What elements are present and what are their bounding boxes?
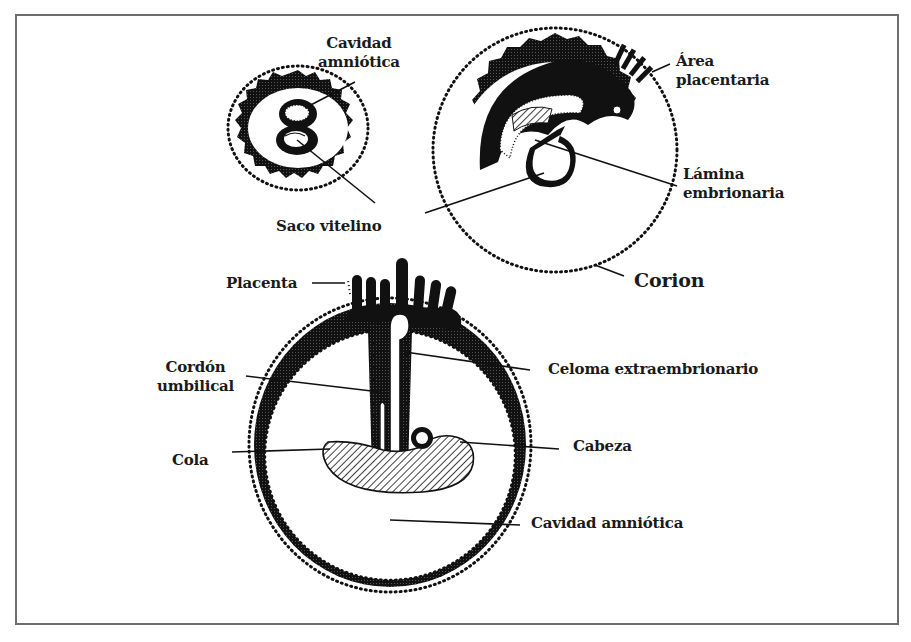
stage2-embryo: [433, 28, 677, 272]
label-placenta: Placenta: [226, 274, 297, 293]
label-celoma-extraembrionario: Celoma extraembrionario: [548, 360, 758, 379]
label-cavidad-amniotica-small: Cavidad amniótica: [318, 34, 400, 72]
label-cola: Cola: [172, 451, 209, 470]
label-saco-vitelino: Saco vitelino: [276, 217, 382, 236]
stage1-embryo: [228, 66, 368, 190]
stage3-embryo: [249, 258, 531, 592]
label-lamina-embrionaria: Lámina embrionaria: [683, 165, 784, 203]
label-cavidad-amniotica-large: Cavidad amniótica: [531, 514, 683, 533]
label-cordon-umbilical: Cordón umbilical: [157, 358, 234, 396]
label-corion: Corion: [634, 271, 704, 290]
label-cabeza: Cabeza: [573, 437, 632, 456]
label-area-placentaria: Área placentaria: [676, 52, 769, 90]
embryo-diagram: [0, 0, 911, 642]
